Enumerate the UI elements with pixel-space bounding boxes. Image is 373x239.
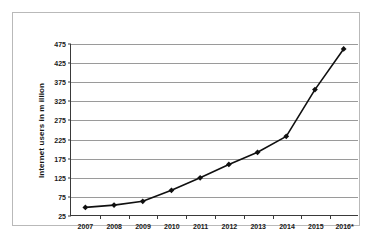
data-point-marker	[197, 175, 203, 181]
y-tick-label: 25	[58, 213, 66, 220]
x-tick-label: 2015	[308, 223, 324, 230]
data-point-marker	[140, 198, 146, 204]
x-tick-label: 2013	[250, 223, 266, 230]
y-tick-label: 175	[54, 155, 66, 162]
x-tick-label: 2014	[279, 223, 295, 230]
chart-frame: Internet users in m illion 2575125175225…	[12, 12, 360, 226]
y-tick-label: 325	[54, 98, 66, 105]
x-tick-label: 2007	[78, 223, 94, 230]
x-tick-mark	[244, 215, 245, 219]
x-tick-mark	[215, 215, 216, 219]
data-point-marker	[82, 205, 88, 211]
series-line-internet-users	[71, 44, 358, 215]
y-tick-label: 425	[54, 60, 66, 67]
series-markers	[82, 46, 346, 210]
y-tick-label: 375	[54, 79, 66, 86]
y-tick-label: 75	[58, 193, 66, 200]
x-tick-mark	[100, 215, 101, 219]
y-tick-label: 125	[54, 174, 66, 181]
plot-area: 2575125175225275325375425475 20072008200…	[70, 44, 358, 216]
y-tick-mark	[68, 216, 71, 217]
x-tick-mark	[129, 215, 130, 219]
x-tick-label: 2012	[222, 223, 238, 230]
x-tick-mark	[330, 215, 331, 219]
x-tick-mark	[273, 215, 274, 219]
series-polyline	[85, 49, 343, 207]
x-tick-mark	[301, 215, 302, 219]
y-tick-label: 475	[54, 41, 66, 48]
data-point-marker	[111, 202, 117, 208]
y-axis-title-text: Internet users in m illion	[38, 82, 47, 177]
x-tick-label: 2016*	[335, 223, 353, 230]
y-tick-label: 275	[54, 117, 66, 124]
x-tick-label: 2011	[193, 223, 208, 230]
x-tick-label: 2008	[106, 223, 122, 230]
data-point-marker	[169, 187, 175, 193]
y-tick-label: 225	[54, 136, 66, 143]
y-axis-title: Internet users in m illion	[35, 44, 49, 216]
x-tick-mark	[157, 215, 158, 219]
x-tick-label: 2009	[135, 223, 151, 230]
x-tick-mark	[186, 215, 187, 219]
data-point-marker	[226, 162, 232, 168]
chart-figure: Internet users in m illion 2575125175225…	[0, 0, 373, 239]
x-tick-label: 2010	[164, 223, 180, 230]
